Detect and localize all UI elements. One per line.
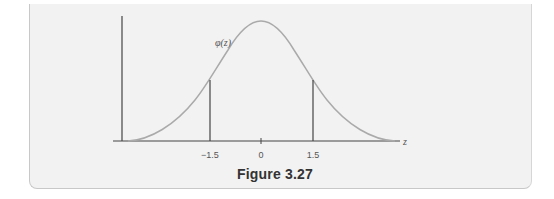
density-curve bbox=[128, 21, 395, 141]
figure-caption-wrap: Figure 3.27 bbox=[0, 166, 554, 182]
axis-label-z: z bbox=[402, 136, 407, 147]
tick-label-zero: 0 bbox=[258, 150, 263, 160]
curve-label: φ(z) bbox=[215, 37, 232, 49]
figure-caption: Figure 3.27 bbox=[237, 166, 313, 182]
tick-label-pos: 1.5 bbox=[307, 150, 320, 160]
tick-label-neg: −1.5 bbox=[201, 150, 219, 160]
